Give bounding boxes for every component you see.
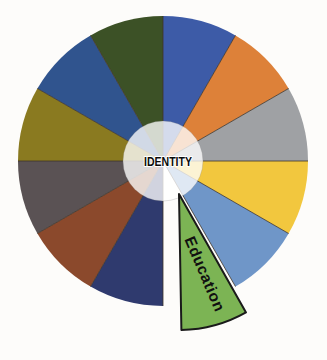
identity-wheel: IDENTITY Education <box>0 0 327 360</box>
identity-wheel-figure: IDENTITY Education <box>0 0 327 360</box>
center-hub-label: IDENTITY <box>144 154 192 169</box>
